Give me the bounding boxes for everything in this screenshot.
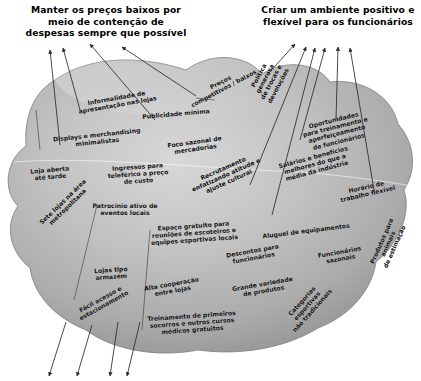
diagram-canvas: Manter os preços baixos por meio de cont…: [0, 0, 421, 381]
heading-cost-containment: Manter os preços baixos por meio de cont…: [2, 4, 210, 39]
node-ingressos: Ingressos para teleférico a preço de cus…: [104, 161, 171, 187]
node-patrocinio: Patrocínio ativo de eventos locais: [89, 202, 161, 216]
heading-positive-environment: Criar um ambiente positivo e flexível pa…: [258, 4, 418, 27]
